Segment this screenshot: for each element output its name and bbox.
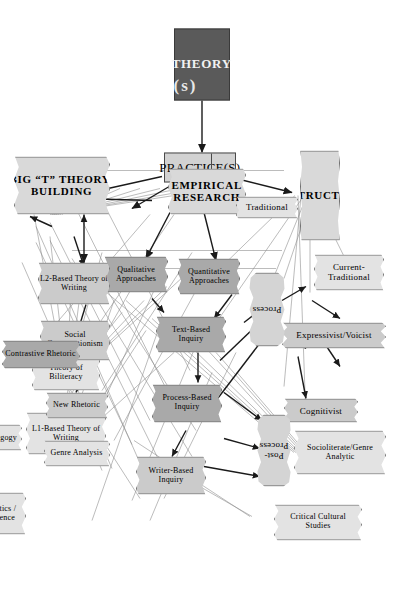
node-biliteracy-line2: Biliteracy bbox=[49, 372, 83, 381]
node-expressivist-voicist: Expressivist/Voicist bbox=[282, 322, 386, 348]
node-critical-cultural-line1: Critical Cultural bbox=[290, 512, 346, 521]
node-post-process-line2: Process bbox=[260, 440, 289, 450]
node-qualitative-line1: Qualitative bbox=[117, 264, 155, 273]
branch-empirical-research: EMPIRICAL RESEARCH bbox=[168, 168, 246, 214]
node-l2-based-line1: L2-Based Theory of bbox=[40, 273, 108, 282]
node-qualitative-line2: Approaches bbox=[116, 273, 156, 282]
node-qualitative-approaches: Qualitative Approaches bbox=[104, 256, 168, 292]
theory-suffix: (s) bbox=[174, 76, 198, 95]
node-l1-based-line1: L1-Based Theory of bbox=[32, 423, 100, 432]
branch-theory-building-line1: BIG “T” THEORY- bbox=[10, 173, 114, 185]
node-critical-cultural-line2: Studies bbox=[306, 521, 331, 530]
node-l1-based-line2: Writing bbox=[53, 432, 79, 441]
node-process-label: Process bbox=[251, 304, 284, 314]
node-text-based-line2: Inquiry bbox=[179, 333, 204, 342]
node-contrastive-rhetoric-label: Contrastive Rhetoric bbox=[4, 350, 78, 359]
node-psycholinguistics-cognitive-science: Psycholinguistics / Cognitive Science bbox=[0, 492, 26, 534]
node-expressivist-voicist-label: Expressivist/Voicist bbox=[294, 330, 373, 340]
branch-instruction: INSTRUCTION bbox=[300, 150, 340, 240]
node-quantitative-line1: Quantitative bbox=[188, 266, 230, 275]
node-process-based-line1: Process-Based bbox=[162, 393, 211, 402]
node-contrastive-rhetoric: Contrastive Rhetoric bbox=[2, 340, 80, 368]
branch-theory-building-line2: BUILDING bbox=[31, 185, 92, 197]
node-l2-based-theory-of-writing: L2-Based Theory of Writing bbox=[38, 262, 110, 304]
node-traditional: Traditional bbox=[236, 196, 298, 218]
node-text-based-line1: Text-Based bbox=[172, 324, 210, 333]
node-socioliterate-line2: Analytic bbox=[325, 451, 354, 460]
figure-canvas: THEORY (s) PRACTICE(S) INSTRUCTION EMPIR… bbox=[0, 0, 402, 603]
node-cognitivist: Cognitivist bbox=[284, 398, 358, 422]
node-cognitivist-label: Cognitivist bbox=[298, 405, 344, 415]
theory-root-box: THEORY (s) bbox=[174, 28, 230, 100]
node-current-traditional: Current- Traditional bbox=[314, 254, 384, 290]
node-post-process: Post- Process bbox=[256, 414, 292, 486]
node-process: Process bbox=[248, 272, 286, 346]
node-genre-analysis-label: Genre Analysis bbox=[49, 449, 105, 458]
branch-theory-building: BIG “T” THEORY- BUILDING bbox=[14, 156, 110, 214]
node-process-based-inquiry: Process-Based Inquiry bbox=[152, 384, 222, 422]
node-quantitative-line2: Approaches bbox=[189, 275, 229, 284]
theory-label: THEORY bbox=[170, 57, 234, 72]
node-writer-based-line2: Inquiry bbox=[159, 474, 184, 483]
node-critical-pedagogy-label: Critical Pedagogy bbox=[0, 433, 19, 442]
node-psycholinguistics-line1: Psycholinguistics / bbox=[0, 503, 16, 512]
node-socioliterate-genre-analytic: Socioliterate/Genre Analytic bbox=[294, 430, 386, 474]
diagram-rotated-group: THEORY (s) PRACTICE(S) INSTRUCTION EMPIR… bbox=[0, 0, 402, 603]
node-process-based-line2: Inquiry bbox=[175, 402, 200, 411]
node-writer-based-inquiry: Writer-Based Inquiry bbox=[136, 456, 206, 494]
node-new-rhetoric: New Rhetoric bbox=[46, 392, 108, 418]
node-text-based-inquiry: Text-Based Inquiry bbox=[156, 316, 226, 352]
node-current-traditional-line1: Current- bbox=[333, 262, 365, 272]
node-new-rhetoric-label: New Rhetoric bbox=[51, 401, 102, 410]
node-genre-analysis: Genre Analysis bbox=[44, 440, 110, 466]
node-current-traditional-line2: Traditional bbox=[328, 272, 370, 282]
node-traditional-label: Traditional bbox=[244, 202, 290, 212]
node-l2-based-line2: Writing bbox=[61, 282, 87, 291]
node-post-process-line1: Post- bbox=[264, 450, 284, 460]
node-psycholinguistics-line2: Cognitive Science bbox=[0, 512, 15, 521]
branch-empirical-line1: EMPIRICAL bbox=[172, 179, 242, 191]
node-socioliterate-line1: Socioliterate/Genre bbox=[307, 442, 373, 451]
node-critical-cultural-studies: Critical Cultural Studies bbox=[274, 504, 362, 540]
node-quantitative-approaches: Quantitative Approaches bbox=[178, 258, 240, 294]
node-critical-pedagogy: Critical Pedagogy bbox=[0, 424, 22, 450]
branch-empirical-line2: RESEARCH bbox=[174, 191, 241, 203]
node-writer-based-line1: Writer-Based bbox=[148, 465, 193, 474]
node-social-constructionism-line1: Social bbox=[64, 330, 85, 339]
